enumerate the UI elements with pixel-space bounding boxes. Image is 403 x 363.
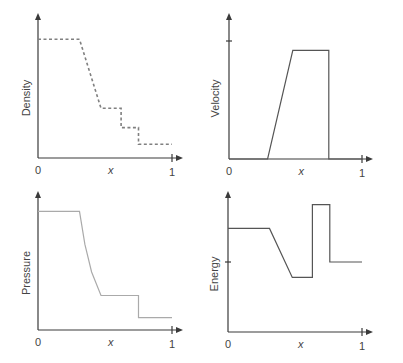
x-axis-label: x: [107, 164, 114, 176]
x-tick-label: 1: [359, 167, 365, 179]
x-axis-arrow-icon: [176, 155, 183, 161]
series-line-energy: [228, 205, 362, 278]
y-axis-label: Density: [20, 79, 32, 116]
y-axis-label: Energy: [208, 256, 220, 291]
panel-pressure: 01xPressure: [20, 191, 183, 350]
series-line-velocity: [229, 50, 362, 159]
x-axis-label: x: [107, 336, 114, 348]
panel-velocity: 01xVelocity: [209, 13, 373, 179]
x-axis-label: x: [298, 165, 305, 177]
series-line-density: [38, 39, 172, 144]
x-axis-arrow-icon: [366, 156, 373, 162]
y-axis-label: Pressure: [20, 251, 32, 295]
x-tick-label: 1: [169, 338, 175, 350]
x-axis-arrow-icon: [366, 329, 373, 335]
y-axis-arrow-icon: [225, 191, 231, 198]
x-tick-label: 0: [226, 165, 232, 177]
x-axis-arrow-icon: [176, 327, 183, 333]
x-tick-label: 0: [225, 338, 231, 350]
figure: 01xDensity01xVelocity01xPressure01xEnerg…: [0, 0, 403, 363]
y-axis-label: Velocity: [209, 79, 221, 117]
x-tick-label: 1: [359, 340, 365, 352]
y-axis-arrow-icon: [35, 191, 41, 198]
x-tick-label: 1: [169, 166, 175, 178]
y-axis-arrow-icon: [35, 13, 41, 20]
series-line-pressure: [38, 211, 172, 317]
x-axis-label: x: [297, 338, 304, 350]
x-tick-label: 0: [35, 336, 41, 348]
y-axis-arrow-icon: [226, 13, 232, 20]
panel-density: 01xDensity: [20, 13, 183, 178]
x-tick-label: 0: [35, 164, 41, 176]
panel-energy: 01xEnergy: [208, 191, 373, 352]
